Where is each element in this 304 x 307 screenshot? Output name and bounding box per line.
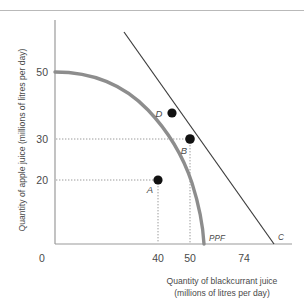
data-point-b[interactable]: [185, 134, 195, 144]
x-tick-label-50: 50: [184, 252, 196, 264]
data-point-a-label: A: [146, 184, 153, 195]
y-tick-label-50: 50: [36, 66, 48, 78]
ppf-curve-label: PPF: [209, 234, 226, 243]
y-tick-label-30: 30: [36, 133, 48, 145]
x-tick-label-0: 0: [39, 252, 45, 264]
data-point-d-label: D: [156, 108, 163, 119]
chart-canvas: A B D PPF C 50 30 20 0 40 50 74 Quantity…: [0, 0, 304, 307]
tangent-line-c-label: C: [278, 233, 284, 242]
ppf-curve: [55, 72, 204, 244]
y-axis-title: Quantity of apple juice (millions of lit…: [17, 48, 27, 231]
data-point-d[interactable]: [167, 108, 176, 117]
x-tick-label-74: 74: [238, 252, 250, 264]
ppf-chart-figure: A B D PPF C 50 30 20 0 40 50 74 Quantity…: [0, 0, 304, 307]
x-axis-title-line1: Quantity of blackcurrant juice: [167, 276, 278, 286]
x-tick-label-40: 40: [152, 252, 164, 264]
x-axis-title-line2: (millions of litres per day): [174, 288, 270, 298]
data-point-a[interactable]: [153, 175, 162, 184]
y-tick-label-20: 20: [36, 174, 48, 186]
data-point-b-label: B: [181, 145, 188, 156]
